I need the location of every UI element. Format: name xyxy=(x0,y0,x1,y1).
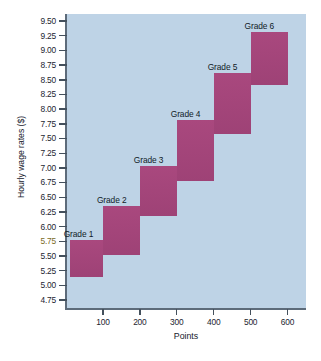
y-tick-label: 4.75 xyxy=(16,295,56,305)
y-tick-mark xyxy=(59,255,67,256)
x-tick-label: 300 xyxy=(160,317,194,327)
grade-box-1 xyxy=(70,240,103,277)
grade-label-3: Grade 3 xyxy=(134,155,164,165)
x-tick-label: 100 xyxy=(86,317,120,327)
grade-label-6: Grade 6 xyxy=(245,21,275,31)
y-tick-mark xyxy=(59,270,67,271)
x-tick-mark xyxy=(287,309,288,315)
x-tick-mark xyxy=(213,309,214,315)
y-tick-label: 5.00 xyxy=(16,280,56,290)
y-axis-line xyxy=(65,14,67,309)
x-tick-label: 200 xyxy=(123,317,157,327)
y-tick-mark xyxy=(59,123,67,124)
y-tick-mark xyxy=(59,182,67,183)
grade-box-6 xyxy=(251,32,288,85)
x-tick-mark xyxy=(176,309,177,315)
x-tick-label: 500 xyxy=(234,317,268,327)
y-tick-label: 9.50 xyxy=(16,16,56,26)
y-tick-mark xyxy=(59,167,67,168)
y-tick-mark xyxy=(59,20,67,21)
y-tick-label: 8.75 xyxy=(16,60,56,70)
x-axis-title: Points xyxy=(66,331,306,341)
x-tick-label: 600 xyxy=(271,317,305,327)
y-tick-mark xyxy=(59,226,67,227)
x-tick-mark xyxy=(102,309,103,315)
x-axis-line xyxy=(65,308,306,310)
grade-box-3 xyxy=(140,166,177,216)
y-tick-label: 8.50 xyxy=(16,75,56,85)
grade-box-4 xyxy=(177,120,214,182)
y-tick-mark xyxy=(59,197,67,198)
y-tick-label: 5.50 xyxy=(16,251,56,261)
y-tick-mark xyxy=(59,241,67,242)
y-tick-mark xyxy=(59,35,67,36)
x-tick-mark xyxy=(139,309,140,315)
grade-label-1: Grade 1 xyxy=(64,229,94,239)
y-tick-label: 5.75 xyxy=(16,236,56,246)
y-tick-mark xyxy=(59,153,67,154)
y-tick-mark xyxy=(59,79,67,80)
y-tick-mark xyxy=(59,94,67,95)
y-tick-mark xyxy=(59,50,67,51)
grade-label-4: Grade 4 xyxy=(171,109,201,119)
y-tick-label: 9.00 xyxy=(16,45,56,55)
grade-label-2: Grade 2 xyxy=(97,195,127,205)
grade-box-2 xyxy=(103,206,140,255)
wage-structure-chart: 9.509.259.008.758.508.258.007.757.507.25… xyxy=(0,0,321,361)
y-tick-label: 9.25 xyxy=(16,31,56,41)
grade-label-5: Grade 5 xyxy=(208,62,238,72)
x-tick-label: 400 xyxy=(197,317,231,327)
y-tick-label: 6.00 xyxy=(16,222,56,232)
y-tick-mark xyxy=(59,211,67,212)
y-tick-mark xyxy=(59,299,67,300)
y-tick-mark xyxy=(59,285,67,286)
y-tick-mark xyxy=(59,108,67,109)
y-tick-mark xyxy=(59,64,67,65)
grade-box-5 xyxy=(214,73,251,134)
x-tick-mark xyxy=(250,309,251,315)
y-tick-label: 5.25 xyxy=(16,266,56,276)
y-tick-mark xyxy=(59,138,67,139)
y-axis-title: Hourly wage rates ($) xyxy=(16,92,26,222)
